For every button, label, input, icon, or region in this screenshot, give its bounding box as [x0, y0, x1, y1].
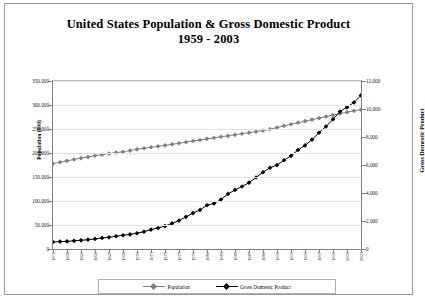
data-point-marker: [170, 142, 175, 147]
data-point-marker: [65, 239, 70, 244]
data-point-marker: [93, 237, 98, 242]
data-point-marker: [156, 226, 161, 231]
data-point-marker: [352, 109, 357, 114]
x-axis-tick-mark: [291, 250, 292, 253]
gridline: [53, 105, 361, 106]
x-axis-tick-mark: [165, 250, 166, 253]
gridline: [53, 201, 361, 202]
y-axis-right-tick-label: 2,000: [366, 218, 406, 224]
data-point-marker: [233, 188, 238, 193]
y-axis-left-tick-label: 0: [5, 246, 49, 252]
data-point-marker: [135, 231, 140, 236]
x-axis-tick-label: 1979: [191, 252, 196, 261]
x-axis-tick-mark: [151, 250, 152, 253]
series-gross-domestic-product: [53, 93, 361, 244]
x-axis-tick-label: 1985: [233, 252, 238, 261]
x-axis-tick-mark: [333, 250, 334, 253]
data-point-marker: [233, 132, 238, 137]
x-axis-tick-mark: [249, 250, 250, 253]
y-axis-right-tick-mark: [362, 165, 366, 166]
y-axis-right-tick-mark: [362, 81, 366, 82]
chart-frame: United States Population & Gross Domesti…: [4, 3, 413, 295]
data-point-marker: [205, 137, 210, 142]
data-point-marker: [93, 153, 98, 158]
data-point-marker: [198, 138, 203, 143]
series-layer: [53, 81, 361, 249]
plot-area: [52, 80, 362, 250]
data-point-marker: [58, 239, 63, 244]
x-axis-tick-label: 1999: [331, 252, 336, 261]
legend-item[interactable]: Population: [143, 284, 189, 290]
x-axis-tick-mark: [221, 250, 222, 253]
gridline: [53, 225, 361, 226]
data-point-marker: [149, 145, 154, 150]
x-axis-tick-label: 1963: [79, 252, 84, 261]
x-axis-tick-label: 1987: [247, 252, 252, 261]
chart-title: United States Population & Gross Domesti…: [5, 17, 412, 47]
gridline: [53, 153, 361, 154]
data-point-marker: [163, 143, 168, 148]
x-axis-tick-mark: [347, 250, 348, 253]
x-axis-tick-label: 2003: [359, 252, 364, 261]
x-axis-tick-mark: [109, 250, 110, 253]
x-axis-tick-mark: [207, 250, 208, 253]
legend-swatch: [216, 286, 238, 287]
data-point-marker: [86, 155, 91, 160]
x-axis-tick-label: 1969: [121, 252, 126, 261]
x-axis-tick-label: 1993: [289, 252, 294, 261]
y-axis-left-tick-label: 300,000: [5, 102, 49, 108]
x-axis-tick-mark: [277, 250, 278, 253]
y-axis-right-tick-label: 0: [366, 246, 406, 252]
data-point-marker: [135, 147, 140, 152]
data-point-marker: [79, 238, 84, 243]
data-point-marker: [149, 227, 154, 232]
data-point-marker: [240, 184, 245, 189]
data-point-marker: [53, 240, 55, 245]
data-point-marker: [226, 133, 231, 138]
data-point-marker: [254, 129, 259, 134]
data-point-marker: [177, 141, 182, 146]
x-axis-tick-label: 1995: [303, 252, 308, 261]
data-point-marker: [331, 113, 336, 118]
data-point-marker: [100, 236, 105, 241]
x-axis-tick-mark: [319, 250, 320, 253]
data-point-marker: [177, 218, 182, 223]
data-point-marker: [191, 211, 196, 216]
x-axis-tick-label: 1997: [317, 252, 322, 261]
data-point-marker: [191, 139, 196, 144]
data-point-marker: [79, 156, 84, 161]
data-point-marker: [128, 232, 133, 237]
data-point-marker: [184, 215, 189, 220]
x-axis-tick-label: 1977: [177, 252, 182, 261]
x-axis-tick-mark: [95, 250, 96, 253]
legend-label: Population: [167, 284, 189, 290]
chart-legend: PopulationGross Domestic Product: [98, 279, 336, 294]
data-point-marker: [303, 119, 308, 124]
x-axis-tick-label: 1967: [107, 252, 112, 261]
x-axis-tick-label: 2001: [345, 252, 350, 261]
y-axis-left-tick-label: 50,000: [5, 222, 49, 228]
data-point-marker: [142, 146, 147, 151]
x-axis-tick-mark: [81, 250, 82, 253]
data-point-marker: [65, 158, 70, 163]
legend-item[interactable]: Gross Domestic Product: [216, 284, 291, 290]
x-axis-tick-label: 1991: [275, 252, 280, 261]
y-axis-left-tick-label: 250,000: [5, 126, 49, 132]
y-axis-right-tick-label: 12,000: [366, 78, 406, 84]
y-axis-right-tick-label: 6,000: [366, 162, 406, 168]
x-axis-tick-label: 1983: [219, 252, 224, 261]
y-axis-right-tick-mark: [362, 221, 366, 222]
data-point-marker: [121, 233, 126, 238]
y-axis-right-title: Gross Domestic Product: [418, 93, 425, 189]
data-point-marker: [310, 117, 315, 122]
data-point-marker: [142, 229, 147, 234]
y-axis-left-tick-label: 200,000: [5, 150, 49, 156]
y-axis-right-tick-label: 8,000: [366, 134, 406, 140]
data-point-marker: [114, 234, 119, 239]
legend-swatch: [143, 286, 165, 287]
chart-title-line2: 1959 - 2003: [5, 32, 412, 47]
data-point-marker: [240, 131, 245, 136]
x-axis-tick-mark: [179, 250, 180, 253]
x-axis-tick-label: 1973: [149, 252, 154, 261]
x-axis-tick-mark: [361, 250, 362, 253]
